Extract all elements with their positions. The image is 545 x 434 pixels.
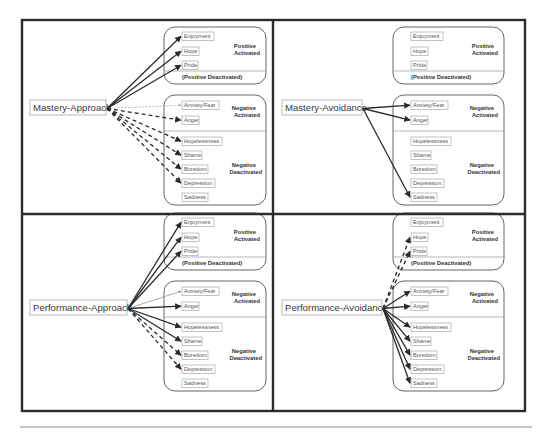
positive-activated-label: Activated — [234, 50, 261, 56]
emotion-label: Sadness — [184, 194, 206, 200]
emotion-label: Boredom — [184, 166, 207, 172]
emotion-label: Sadness — [184, 380, 206, 386]
emotion-label: Boredom — [413, 352, 436, 358]
emotion-shame: Shame — [182, 337, 202, 346]
emotion-label: Depression — [184, 180, 212, 186]
emotion-label: Shame — [184, 338, 202, 344]
emotion-label: Hope — [413, 234, 426, 240]
emotion-hope: Hope — [182, 233, 199, 242]
negative-activated-label: Activated — [472, 112, 499, 118]
goal-mastery-approach: Mastery-Approach — [30, 100, 111, 115]
emotion-label: Enjoyment — [413, 33, 440, 39]
emotion-label: Anxiety/Fear — [413, 102, 445, 108]
emotion-sadness: Sadness — [182, 193, 208, 202]
emotion-depression: Depression — [411, 179, 444, 188]
emotion-label: Hope — [413, 48, 426, 54]
negative-deactivated-label: Negative — [470, 348, 495, 354]
emotion-label: Hopelessness — [184, 138, 219, 144]
panel-performance-avoidance: PositiveActivated(Positive Deactivated)E… — [282, 213, 504, 391]
emotion-pride: Pride — [182, 61, 198, 70]
goal-label: Mastery-Approach — [33, 102, 111, 113]
emotion-label: Depression — [413, 180, 441, 186]
positive-deactivated-label: (Positive Deactivated) — [411, 74, 471, 80]
negative-activated-label: Activated — [234, 112, 261, 118]
negative-deactivated-label: Deactivated — [467, 169, 500, 175]
negative-activated-label: Negative — [470, 105, 495, 111]
negative-deactivated-label: Negative — [232, 162, 257, 168]
positive-emotions-group: PositiveActivated(Positive Deactivated)E… — [393, 27, 504, 84]
positive-activated-label: Activated — [472, 50, 499, 56]
emotion-label: Anxiety/Fear — [184, 288, 216, 294]
emotion-hope: Hope — [411, 47, 428, 56]
positive-activated-label: Activated — [234, 236, 261, 242]
emotion-enjoyment: Enjoyment — [182, 32, 214, 41]
emotion-label: Hope — [184, 48, 197, 54]
emotion-boredom: Boredom — [411, 165, 437, 174]
emotion-label: Hope — [184, 234, 197, 240]
emotion-label: Shame — [413, 152, 431, 158]
positive-deactivated-label: (Positive Deactivated) — [182, 74, 242, 80]
emotion-label: Anxiety/Fear — [184, 102, 216, 108]
emotion-hopelessness: Hopelessness — [182, 323, 222, 332]
emotion-enjoyment: Enjoyment — [182, 218, 214, 227]
goal-label: Mastery-Avoidance — [285, 102, 367, 113]
emotion-label: Enjoyment — [184, 219, 211, 225]
goal-label: Performance-Approach — [33, 302, 132, 313]
emotion-boredom: Boredom — [182, 165, 208, 174]
emotion-anxiety-fear: Anxiety/Fear — [411, 287, 448, 296]
panel-mastery-approach: PositiveActivated(Positive Deactivated)E… — [30, 27, 266, 205]
positive-emotions-group: PositiveActivated(Positive Deactivated)E… — [393, 213, 504, 270]
emotion-anger: Anger — [182, 302, 199, 311]
emotion-label: Enjoyment — [413, 219, 440, 225]
emotion-label: Depression — [413, 366, 441, 372]
emotion-label: Pride — [184, 62, 197, 68]
negative-deactivated-label: Deactivated — [467, 355, 500, 361]
emotion-label: Anger — [184, 117, 199, 123]
emotion-label: Boredom — [184, 352, 207, 358]
positive-activated-label: Activated — [472, 236, 499, 242]
emotion-boredom: Boredom — [411, 351, 437, 360]
panel-mastery-avoidance: PositiveActivated(Positive Deactivated)E… — [282, 27, 504, 205]
emotion-sadness: Sadness — [182, 379, 208, 388]
panel-performance-approach: PositiveActivated(Positive Deactivated)E… — [30, 213, 266, 391]
emotion-label: Pride — [184, 248, 197, 254]
emotion-label: Hopelessness — [184, 324, 219, 330]
positive-emotions-group: PositiveActivated(Positive Deactivated)E… — [164, 213, 266, 270]
negative-activated-label: Negative — [232, 291, 257, 297]
goal-label: Performance-Avoidance — [285, 302, 388, 313]
emotion-label: Shame — [184, 152, 202, 158]
emotion-depression: Depression — [411, 365, 444, 374]
panels: PositiveActivated(Positive Deactivated)E… — [30, 27, 504, 391]
goal-mastery-avoidance: Mastery-Avoidance — [282, 100, 367, 115]
emotion-sadness: Sadness — [411, 379, 437, 388]
emotion-depression: Depression — [182, 179, 215, 188]
emotion-hope: Hope — [411, 233, 428, 242]
emotion-label: Hopelessness — [413, 138, 448, 144]
negative-emotions-group: NegativeActivatedNegativeDeactivatedAnxi… — [164, 281, 266, 391]
positive-activated-label: Positive — [234, 43, 257, 49]
emotion-enjoyment: Enjoyment — [411, 32, 443, 41]
emotion-shame: Shame — [411, 151, 431, 160]
emotion-label: Boredom — [413, 166, 436, 172]
emotion-sadness: Sadness — [411, 193, 437, 202]
negative-deactivated-label: Deactivated — [229, 169, 262, 175]
emotion-hopelessness: Hopelessness — [411, 323, 451, 332]
goal-performance-approach: Performance-Approach — [30, 300, 132, 315]
emotion-anger: Anger — [182, 116, 199, 125]
negative-emotions-group: NegativeActivatedNegativeDeactivatedAnxi… — [393, 281, 504, 391]
emotion-label: Anger — [184, 303, 199, 309]
negative-deactivated-label: Negative — [232, 348, 257, 354]
positive-emotions-group: PositiveActivated(Positive Deactivated)E… — [164, 27, 266, 84]
emotion-pride: Pride — [411, 247, 427, 256]
negative-activated-label: Negative — [232, 105, 257, 111]
negative-activated-label: Negative — [470, 291, 495, 297]
emotion-boredom: Boredom — [182, 351, 208, 360]
goal-performance-avoidance: Performance-Avoidance — [282, 300, 388, 315]
emotion-depression: Depression — [182, 365, 215, 374]
emotion-anxiety-fear: Anxiety/Fear — [182, 101, 219, 110]
negative-activated-label: Activated — [472, 298, 499, 304]
positive-activated-label: Positive — [472, 229, 495, 235]
emotion-pride: Pride — [182, 247, 198, 256]
positive-activated-label: Positive — [472, 43, 495, 49]
negative-deactivated-label: Negative — [470, 162, 495, 168]
